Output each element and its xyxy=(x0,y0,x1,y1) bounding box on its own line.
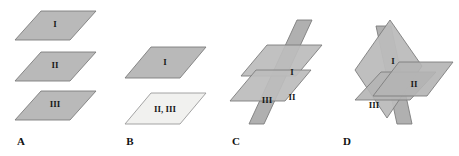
plane-label-a-1: I xyxy=(53,19,57,29)
panel-a: I II III A xyxy=(15,11,96,147)
plane-label-c-1: I xyxy=(290,67,294,77)
figure-canvas: I II III A I II, III B I II III C xyxy=(0,0,459,156)
panel-b: I II, III B xyxy=(125,47,206,147)
plane-label-b-1: I xyxy=(163,57,167,67)
panel-letter-d: D xyxy=(343,135,351,147)
panel-d: I II III D xyxy=(343,20,453,147)
geometry-figure: I II III A I II, III B I II III C xyxy=(0,0,459,156)
plane-label-d-1: I xyxy=(391,56,395,66)
plane-label-c-3: III xyxy=(262,95,273,105)
plane-label-a-3: III xyxy=(50,99,61,109)
panel-letter-c: C xyxy=(232,135,240,147)
plane-label-d-2: II xyxy=(410,79,418,89)
plane-label-c-2: II xyxy=(288,92,296,102)
panel-letter-b: B xyxy=(126,135,134,147)
plane-label-a-2: II xyxy=(51,60,59,70)
panel-c: I II III C xyxy=(230,20,322,147)
plane-label-b-2: II, III xyxy=(154,104,177,114)
panel-letter-a: A xyxy=(17,135,25,147)
plane-label-d-3: III xyxy=(369,100,380,110)
